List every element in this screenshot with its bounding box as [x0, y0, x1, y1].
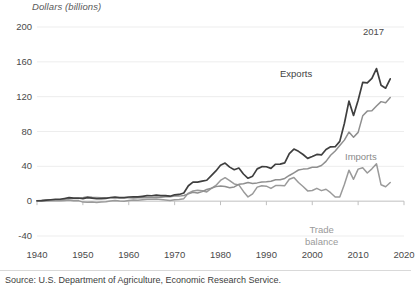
x-tick-label: 1980 — [201, 249, 241, 260]
series-label-imports: Imports — [345, 151, 377, 162]
x-tick-label: 2000 — [292, 249, 332, 260]
trade-balance-line2: balance — [305, 236, 338, 247]
y-tick-label: -40 — [4, 230, 32, 241]
y-tick-label: 0 — [4, 195, 32, 206]
series-line-imports — [37, 97, 390, 200]
x-tick-label: 1970 — [155, 249, 195, 260]
x-tick-label: 2020 — [384, 249, 419, 260]
footer-divider — [0, 270, 411, 271]
y-tick-label: 80 — [4, 126, 32, 137]
series-label-trade-balance: Trade balance — [305, 224, 338, 247]
series-label-exports: Exports — [280, 68, 312, 79]
x-tick-label: 2010 — [338, 249, 378, 260]
y-tick-label: 200 — [4, 21, 32, 32]
x-tick-label: 1960 — [109, 249, 149, 260]
source-note: Source: U.S. Department of Agriculture, … — [5, 275, 281, 285]
x-tick-label: 1990 — [246, 249, 286, 260]
trade-balance-line1: Trade — [309, 224, 333, 235]
x-tick-label: 1940 — [17, 249, 57, 260]
y-tick-label: 40 — [4, 160, 32, 171]
series-line-exports — [37, 69, 390, 201]
data-series-group — [37, 69, 390, 203]
y-tick-label: 120 — [4, 91, 32, 102]
y-tick-label: 160 — [4, 56, 32, 67]
x-tick-label: 1950 — [63, 249, 103, 260]
